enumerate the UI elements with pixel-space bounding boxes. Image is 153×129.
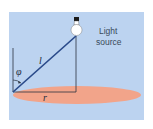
radius-label: r xyxy=(43,92,47,103)
light-source-diagram: Light source φ l r xyxy=(0,0,153,129)
illuminated-surface xyxy=(13,86,141,104)
angle-label: φ xyxy=(16,66,22,77)
light-source-label-line1: Light xyxy=(99,26,118,36)
hypotenuse-label: l xyxy=(39,55,42,66)
light-source-label-line2: source xyxy=(96,37,122,47)
